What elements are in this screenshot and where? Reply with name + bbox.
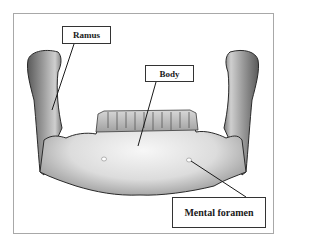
label-mental-foramen: Mental foramen [172, 197, 266, 228]
label-ramus: Ramus [62, 26, 111, 44]
label-body: Body [145, 65, 194, 82]
left-mental-foramen [102, 157, 107, 161]
